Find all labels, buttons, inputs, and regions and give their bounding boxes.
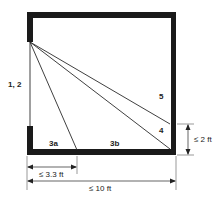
label-3a: 3a (49, 139, 58, 148)
room-diagram: 1, 2 5 4 3a 3b ≤ 2 ft ≤ 3.3 ft ≤ 10 ft (0, 0, 223, 200)
line-4 (30, 42, 170, 149)
label-dim-long: ≤ 10 ft (89, 184, 112, 193)
label-5: 5 (159, 92, 164, 101)
top-wall (27, 12, 176, 18)
extension-lines (27, 124, 194, 190)
right-wall (171, 12, 176, 155)
label-4: 4 (159, 126, 164, 135)
sight-lines (30, 42, 170, 150)
label-3b: 3b (110, 139, 119, 148)
line-3a (30, 42, 77, 150)
label-dim-height: ≤ 2 ft (194, 135, 213, 144)
label-1-2: 1, 2 (8, 80, 22, 89)
label-dim-short: ≤ 3.3 ft (39, 170, 64, 179)
line-5 (30, 42, 170, 124)
left-wall-upper (27, 12, 33, 42)
bottom-wall (27, 149, 176, 155)
